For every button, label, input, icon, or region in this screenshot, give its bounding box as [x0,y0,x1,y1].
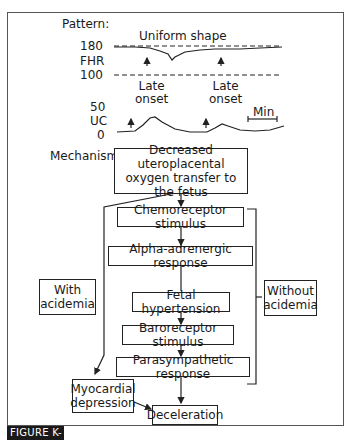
without-acidemia-box: Without acidemia [264,280,317,316]
mechanism-label: Mechanism: [50,149,122,163]
fhr-lower-tick: 100 [80,68,103,82]
step-baroreceptor: Baroreceptor stimulus [122,325,234,345]
step-alpha-adrenergic: Alpha-adrenergic response [108,246,253,266]
step-fetal-hypertension: Fetal hypertension [132,292,230,312]
fhr-axis-label: FHR [80,54,104,68]
onset-label-2: Late onset [209,80,242,106]
pattern-label: Pattern: [62,17,109,31]
step-parasympathetic: Parasympathetic response [116,357,250,377]
uc-lower-tick: 0 [97,128,105,142]
deceleration-box: Deceleration [152,405,218,425]
with-acidemia-box: With acidemia [39,279,96,315]
min-scale-label: Min [253,105,274,119]
fhr-trace [114,47,282,60]
tracing-title: Uniform shape [139,29,227,43]
uc-axis-label: UC [90,114,107,128]
fhr-upper-tick: 180 [80,39,103,53]
onset-label-1: Late onset [135,80,168,106]
figure-caption: FIGURE K-3 [7,426,64,440]
step-chemoreceptor: Chemoreceptor stimulus [117,207,244,227]
uc-upper-tick: 50 [90,100,105,114]
myocardial-depression-box: Myocardial depression [72,379,134,413]
root-box: Decreased uteroplacental oxygen transfer… [114,148,248,194]
